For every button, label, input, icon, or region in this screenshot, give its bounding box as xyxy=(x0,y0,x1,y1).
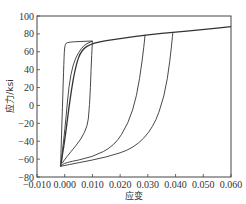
y-tick-label: −60 xyxy=(18,154,34,165)
y-tick-label: 20 xyxy=(24,82,34,93)
x-tick-label: 0.010 xyxy=(81,179,104,190)
curve-series-3 xyxy=(61,35,146,167)
x-tick-label: −0.010 xyxy=(23,179,51,190)
y-tick-label: 60 xyxy=(24,46,34,57)
hysteresis-curves xyxy=(61,27,231,167)
x-tick-label: 0.050 xyxy=(192,179,215,190)
y-tick-label: −20 xyxy=(18,118,34,129)
stress-strain-chart: −80−60−40−20020406080100 −0.0100.0000.01… xyxy=(0,0,246,204)
y-tick-label: 40 xyxy=(24,64,34,75)
x-tick-label: 0.030 xyxy=(137,179,160,190)
y-axis-title: 应力/ksi xyxy=(4,79,15,112)
x-tick-label: 0.060 xyxy=(220,179,243,190)
y-tick-label: 100 xyxy=(19,11,34,22)
curve-series-2 xyxy=(62,41,93,163)
y-tick-label: −40 xyxy=(18,136,34,147)
plot-frame xyxy=(37,16,231,177)
y-tick-label: 80 xyxy=(24,28,34,39)
curve-series-5 xyxy=(61,41,93,166)
x-tick-label: 0.000 xyxy=(53,179,76,190)
curve-series-1 xyxy=(61,27,231,167)
x-axis-ticks: −0.0100.0000.0100.0200.0300.0400.0500.06… xyxy=(23,174,242,190)
y-tick-label: 0 xyxy=(29,100,34,111)
curve-series-4 xyxy=(61,33,173,166)
x-axis-title: 应变 xyxy=(125,190,143,201)
x-tick-label: 0.040 xyxy=(164,179,187,190)
x-tick-label: 0.020 xyxy=(109,179,132,190)
